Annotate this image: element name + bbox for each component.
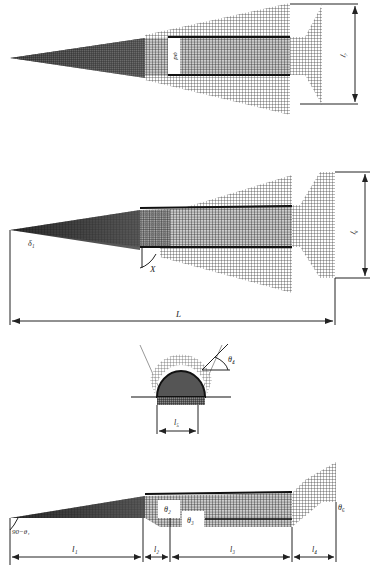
segment2-label: l₂ bbox=[154, 545, 159, 554]
side-nose bbox=[10, 496, 145, 518]
front-angle-label: θ₄ bbox=[228, 355, 235, 364]
angle2-label: θ₂ bbox=[164, 505, 171, 514]
vehicle-mesh-diagram: φd l₇ X δ₁ L l₆ bbox=[0, 0, 375, 587]
side-nose-angle-label: 90−θ₁ bbox=[12, 528, 30, 536]
segment3-label: l₃ bbox=[230, 545, 235, 554]
view-top-wing: X δ₁ L l₆ bbox=[10, 172, 370, 325]
diameter-label: φd bbox=[172, 52, 180, 60]
view-front: θ₄ l₅ bbox=[131, 344, 235, 434]
length-label: L bbox=[175, 309, 181, 319]
segment1-label: l₁ bbox=[72, 544, 78, 554]
height-label-l7: l₇ bbox=[338, 51, 348, 59]
tail-mesh bbox=[292, 172, 335, 278]
nose-angle-label: δ₁ bbox=[28, 239, 35, 248]
side-tail-mesh bbox=[292, 462, 336, 527]
tail-mesh bbox=[290, 5, 322, 105]
view-side: θ₂ θ₃ θ₆ 90−θ₁ l₁ l₂ l₃ l₄ bbox=[10, 462, 345, 565]
sweep-angle-label: X bbox=[149, 264, 156, 274]
angle3-label: θ₃ bbox=[187, 516, 194, 525]
segment4-label: l₄ bbox=[312, 545, 317, 554]
angle6-label: θ₆ bbox=[338, 503, 345, 512]
front-width-label: l₅ bbox=[174, 418, 179, 427]
view-top-upper: φd l₇ bbox=[10, 3, 358, 115]
side-fuselage-mesh bbox=[10, 493, 292, 527]
front-body bbox=[157, 371, 205, 397]
height-label-l6: l₆ bbox=[348, 228, 358, 236]
